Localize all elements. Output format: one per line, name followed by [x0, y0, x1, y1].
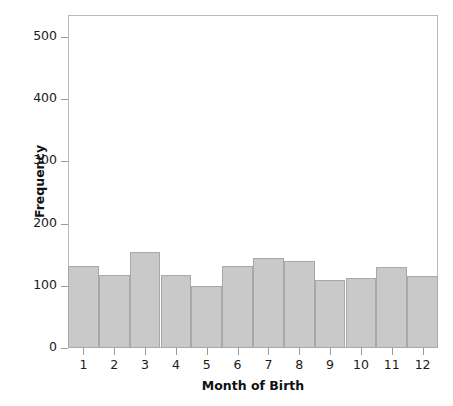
x-tick-label: 9	[318, 357, 342, 372]
x-tick-label: 1	[71, 357, 95, 372]
x-tick-label: 4	[164, 357, 188, 372]
histogram-chart: Frequency 0100200300400500 1234567891011…	[0, 0, 453, 406]
y-tick-mark	[61, 37, 68, 38]
bar-month-11	[376, 267, 407, 348]
y-tick-0: 0	[0, 348, 68, 349]
y-tick-mark	[61, 99, 68, 100]
y-tick-label: 0	[49, 339, 57, 354]
y-tick-100: 100	[0, 286, 68, 287]
y-tick-label: 500	[33, 28, 57, 43]
x-tick-11: 11	[392, 348, 393, 355]
x-tick-9: 9	[330, 348, 331, 355]
y-tick-mark	[61, 224, 68, 225]
x-tick-mark	[114, 348, 115, 355]
x-tick-mark	[145, 348, 146, 355]
y-tick-mark	[61, 286, 68, 287]
y-tick-500: 500	[0, 37, 68, 38]
x-tick-12: 12	[423, 348, 424, 355]
x-tick-3: 3	[145, 348, 146, 355]
y-tick-label: 100	[33, 277, 57, 292]
bar-month-6	[222, 266, 253, 348]
x-tick-6: 6	[238, 348, 239, 355]
y-tick-label: 300	[33, 152, 57, 167]
x-tick-label: 3	[133, 357, 157, 372]
bar-month-8	[284, 261, 315, 348]
bar-month-9	[315, 280, 346, 348]
x-tick-label: 8	[287, 357, 311, 372]
bar-month-2	[99, 275, 130, 348]
x-tick-5: 5	[207, 348, 208, 355]
y-tick-300: 300	[0, 161, 68, 162]
x-tick-mark	[423, 348, 424, 355]
x-tick-label: 11	[380, 357, 404, 372]
x-tick-4: 4	[176, 348, 177, 355]
bar-month-7	[253, 258, 284, 348]
x-tick-8: 8	[299, 348, 300, 355]
x-tick-mark	[392, 348, 393, 355]
y-tick-200: 200	[0, 224, 68, 225]
bar-month-3	[130, 252, 161, 348]
x-tick-label: 12	[411, 357, 435, 372]
x-tick-mark	[299, 348, 300, 355]
x-tick-label: 2	[102, 357, 126, 372]
x-tick-label: 6	[226, 357, 250, 372]
x-tick-mark	[361, 348, 362, 355]
x-tick-10: 10	[361, 348, 362, 355]
x-axis-title: Month of Birth	[68, 378, 438, 393]
x-tick-mark	[330, 348, 331, 355]
x-tick-mark	[83, 348, 84, 355]
x-tick-7: 7	[268, 348, 269, 355]
x-tick-mark	[238, 348, 239, 355]
y-tick-label: 200	[33, 215, 57, 230]
x-tick-1: 1	[83, 348, 84, 355]
x-tick-label: 5	[195, 357, 219, 372]
x-tick-mark	[268, 348, 269, 355]
x-tick-2: 2	[114, 348, 115, 355]
bars-layer	[68, 15, 438, 348]
y-tick-mark	[61, 348, 68, 349]
x-tick-label: 10	[349, 357, 373, 372]
x-tick-label: 7	[256, 357, 280, 372]
bar-month-5	[191, 286, 222, 348]
y-tick-400: 400	[0, 99, 68, 100]
bar-month-4	[161, 275, 192, 348]
y-tick-label: 400	[33, 90, 57, 105]
bar-month-12	[407, 276, 438, 348]
bar-month-10	[346, 278, 377, 348]
bar-month-1	[68, 266, 99, 348]
x-tick-mark	[207, 348, 208, 355]
x-tick-mark	[176, 348, 177, 355]
y-tick-mark	[61, 161, 68, 162]
